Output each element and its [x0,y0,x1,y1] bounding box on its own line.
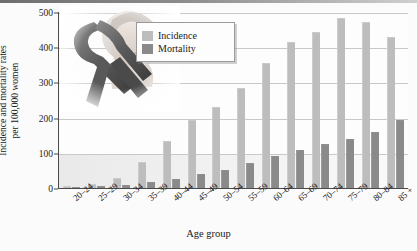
bar-group [258,12,283,188]
bar-mortality-6064 [271,156,279,188]
legend-item-incidence: Incidence [142,30,228,41]
y-tick-label-0: 0 [48,184,53,194]
bar-incidence-85 [387,37,395,188]
bar-mortality-8084 [371,132,379,188]
x-axis-title: Age group [0,228,417,239]
bar-incidence-2024 [63,186,71,188]
x-tick-label: 85 + [384,190,409,230]
x-tick-label: 80–84 [359,190,384,230]
bar-incidence-7074 [312,32,320,188]
bar-mortality-4044 [172,179,180,188]
bar-group [233,12,258,188]
bar-group [358,12,383,188]
bar-incidence-6064 [262,63,270,188]
bar-group [333,12,358,188]
bar-mortality-7579 [346,139,354,188]
bar-incidence-5054 [212,107,220,188]
bar-group [383,12,408,188]
x-tick-label: 40–44 [159,190,184,230]
bar-group [109,12,134,188]
y-tick-label-100: 100 [39,149,53,159]
bar-group [84,12,109,188]
y-tick-label-300: 300 [39,78,53,88]
legend-label-incidence: Incidence [158,30,197,41]
bar-mortality-4549 [197,174,205,188]
bar-incidence-6569 [287,42,295,188]
bar-mortality-3539 [147,182,155,188]
y-tick-label-500: 500 [39,8,53,18]
y-axis-title-line2: per 100,000 women [9,12,21,189]
x-tick-label: 75–79 [334,190,359,230]
legend-swatch-incidence [142,31,153,41]
x-tick-label: 30–34 [109,190,134,230]
x-tick-label: 35–39 [134,190,159,230]
x-tick-label: 50–54 [209,190,234,230]
legend-swatch-mortality [142,44,153,54]
x-axis-tick-labels: 20–2425–2930–3435–3940–4445–4950–5455–59… [59,190,409,230]
x-tick-label: 70–74 [309,190,334,230]
y-axis-title: Incidence and mortality rates per 100,00… [4,12,30,189]
bar-mortality-5054 [221,170,229,188]
x-tick-label: 60–64 [259,190,284,230]
bar-incidence-4549 [188,120,196,188]
x-tick-label: 65–69 [284,190,309,230]
bar-group [308,12,333,188]
y-tick-label-400: 400 [39,43,53,53]
x-tick-label: 45–49 [184,190,209,230]
x-tick-label: 25–29 [84,190,109,230]
x-tick-label: 55–59 [234,190,259,230]
bar-mortality-5559 [246,163,254,188]
y-axis-title-line1: Incidence and mortality rates [0,12,9,189]
top-rule-divider [0,0,417,3]
bar-group [283,12,308,188]
bar-mortality-6569 [296,150,304,188]
bar-incidence-7579 [337,18,345,188]
bar-mortality-85 [396,120,404,188]
bar-incidence-8084 [362,22,370,188]
bar-mortality-7074 [321,144,329,188]
y-tick-label-200: 200 [39,114,53,124]
legend-item-mortality: Mortality [142,43,228,54]
bar-group [59,12,84,188]
legend-label-mortality: Mortality [158,43,196,54]
bar-incidence-5559 [237,88,245,188]
chart-legend: Incidence Mortality [136,22,235,62]
x-tick-label: 20–24 [59,190,84,230]
chart-figure: Incidence and mortality rates per 100,00… [0,0,417,251]
